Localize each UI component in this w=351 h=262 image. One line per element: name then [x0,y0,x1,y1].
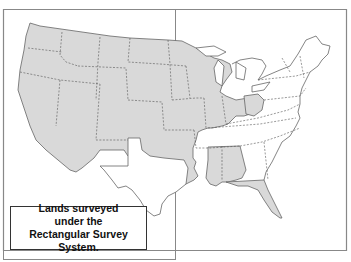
surveyed-region-florida [226,180,282,218]
legend-line-3: Rectangular Survey System. [11,228,146,254]
legend-line-2: under the [55,215,103,228]
surveyed-region-southeast [206,146,246,186]
legend-line-1: Lands surveyed [39,202,119,215]
surveyed-region-ohio [244,94,264,116]
legend-box: Lands surveyed under the Rectangular Sur… [10,206,147,250]
